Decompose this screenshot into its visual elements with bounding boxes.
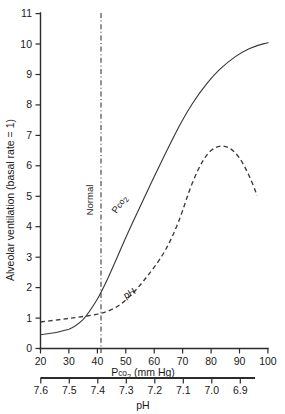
ph-tick-label: 6.9 [233, 384, 248, 396]
y-tick-label: 1 [26, 312, 32, 324]
y-axis-title: Alveolar ventilation (basal rate = 1) [4, 119, 16, 281]
ph-curve [41, 146, 258, 322]
y-tick-label: 7 [26, 129, 32, 141]
x-tick-group: 20 30 40 50 60 70 80 90 100 [35, 349, 277, 368]
ph-tick-label: 7.1 [176, 384, 191, 396]
y-tick-label: 11 [21, 7, 32, 19]
x-axis-title-p: P [111, 366, 118, 378]
pco2-curve-label: Pco2 [109, 193, 131, 217]
ph-tick-label: 7.4 [90, 384, 105, 396]
x-tick-label: 20 [35, 355, 47, 367]
ph-curve-label: pH [121, 285, 137, 301]
y-tick-label: 2 [26, 281, 32, 293]
ph-tick-label: 7.5 [62, 384, 77, 396]
x-axis-title-co: co [118, 368, 127, 378]
y-tick-label: 5 [26, 190, 32, 202]
x-tick-label: 90 [234, 355, 246, 367]
ph-axis-title: pH [136, 399, 149, 411]
x-tick-label: 40 [92, 355, 104, 367]
ph-tick-label: 7.3 [119, 384, 134, 396]
x-tick-label: 50 [120, 355, 132, 367]
y-tick-label: 4 [26, 220, 32, 232]
chart-svg: Alveolar ventilation (basal rate = 1) 0 … [0, 0, 285, 414]
y-tick-label: 9 [26, 68, 32, 80]
ph-tick-labels: 7.6 7.5 7.4 7.3 7.2 7.1 7.0 6.9 [33, 384, 247, 396]
ventilation-response-chart: Alveolar ventilation (basal rate = 1) 0 … [0, 0, 285, 414]
x-tick-label: 80 [205, 355, 217, 367]
y-tick-label: 3 [26, 251, 32, 263]
y-tick-label: 8 [26, 98, 32, 110]
pco2-curve [41, 43, 269, 335]
x-axis-title-units: (mm Hg) [131, 366, 175, 378]
y-tick-group: 0 1 2 3 4 5 6 7 8 9 10 11 [20, 7, 40, 354]
ph-tick-label: 7.2 [147, 384, 162, 396]
ph-tick-label: 7.0 [204, 384, 219, 396]
y-tick-label: 0 [26, 342, 32, 354]
x-tick-label: 100 [259, 355, 277, 367]
normal-label: Normal [84, 185, 95, 216]
y-tick-label: 6 [26, 159, 32, 171]
x-tick-label: 30 [63, 355, 75, 367]
ph-tick-label: 7.6 [33, 384, 48, 396]
x-tick-label: 70 [177, 355, 189, 367]
y-tick-label: 10 [20, 38, 32, 50]
